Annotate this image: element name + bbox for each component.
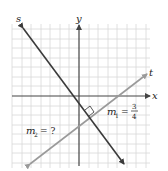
m2-equals-question: = ? <box>40 126 55 136</box>
m1-denominator: 4 <box>132 113 137 121</box>
m2-subscript: 2 <box>34 131 38 138</box>
m1-subscript: 1 <box>115 112 119 119</box>
x-axis-label: x <box>152 90 158 101</box>
m1-equals: = <box>121 107 129 117</box>
coordinate-plane-diagram: s y t x m 1 = 3 4 m 2 = ? <box>0 0 168 171</box>
line-s-label: s <box>16 13 21 24</box>
m1-numerator: 3 <box>132 103 136 111</box>
line-t-label: t <box>149 67 154 78</box>
y-axis-label: y <box>75 13 82 24</box>
line-t <box>30 74 147 164</box>
